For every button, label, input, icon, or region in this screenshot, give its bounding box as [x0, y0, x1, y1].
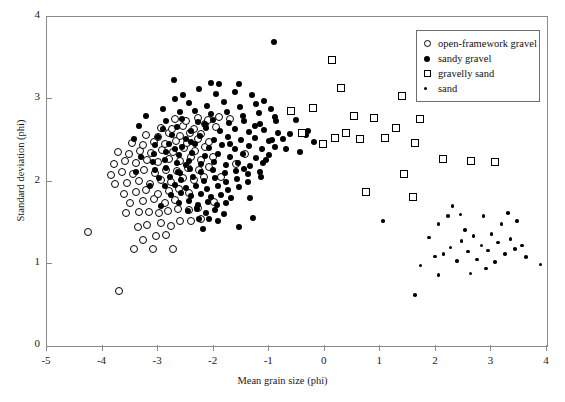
data-point: [225, 187, 231, 193]
data-point: [309, 104, 317, 112]
data-point: [245, 179, 251, 185]
data-point: [189, 150, 195, 156]
data-point: [212, 175, 218, 181]
data-point: [466, 250, 470, 254]
data-point: [249, 92, 255, 98]
filled-dot-icon: [424, 87, 438, 90]
data-point: [139, 197, 147, 205]
data-point: [503, 252, 507, 256]
data-point: [107, 171, 115, 179]
data-point: [269, 137, 275, 143]
data-point: [143, 113, 149, 119]
data-point: [151, 151, 157, 157]
data-point: [224, 109, 230, 115]
data-point: [210, 117, 216, 123]
x-axis-tick-label: 0: [304, 354, 344, 366]
x-axis-tick: [324, 345, 325, 351]
data-point: [176, 217, 184, 225]
data-point: [157, 219, 165, 227]
data-point: [232, 146, 238, 152]
x-axis-tick-label: 1: [359, 354, 399, 366]
data-point: [223, 179, 229, 185]
data-point: [416, 115, 424, 123]
data-point: [271, 39, 277, 45]
data-point: [164, 207, 172, 215]
scatter-plot-figure: Standard deviation (phi) -5-4-3-2-101234…: [0, 0, 565, 402]
data-point: [493, 260, 497, 264]
data-point: [362, 188, 370, 196]
data-point: [163, 118, 169, 124]
data-point: [381, 219, 385, 223]
legend-item-open-framework-gravel[interactable]: open-framework gravel: [417, 36, 539, 51]
x-axis-tick: [102, 345, 103, 351]
legend-label: sand: [438, 83, 457, 94]
data-point: [131, 136, 137, 142]
data-point: [268, 106, 274, 112]
data-point: [442, 252, 446, 256]
data-point: [205, 199, 211, 205]
data-point: [257, 121, 263, 127]
data-point: [237, 104, 243, 110]
data-point: [120, 190, 128, 198]
legend-item-sandy-gravel[interactable]: sandy gravel: [417, 51, 539, 66]
data-point: [222, 170, 228, 176]
data-point: [263, 157, 269, 163]
data-point: [147, 183, 153, 189]
data-point: [486, 249, 490, 253]
legend-item-sand[interactable]: sand: [417, 81, 539, 96]
data-point: [174, 160, 180, 166]
data-point: [130, 245, 138, 253]
data-point: [261, 98, 267, 104]
data-point: [136, 123, 142, 129]
data-point: [111, 180, 119, 188]
y-axis-tick-label: 3: [18, 90, 40, 102]
y-axis-tick-label: 4: [18, 8, 40, 20]
data-point: [228, 195, 234, 201]
data-point: [480, 244, 484, 248]
data-point: [218, 192, 224, 198]
data-point: [247, 163, 253, 169]
data-point: [202, 153, 208, 159]
data-point: [311, 139, 317, 145]
data-point: [283, 146, 289, 152]
data-point: [350, 112, 358, 120]
data-point: [200, 226, 206, 232]
data-point: [433, 255, 437, 259]
data-point: [427, 236, 431, 240]
data-point: [287, 107, 295, 115]
data-point: [236, 224, 242, 230]
data-point: [472, 234, 476, 238]
data-point: [287, 131, 293, 137]
data-point: [235, 160, 241, 166]
x-axis-tick-label: -5: [26, 354, 66, 366]
data-point: [123, 179, 131, 187]
data-point: [342, 129, 350, 137]
data-point: [293, 117, 299, 123]
data-point: [206, 145, 212, 151]
data-point: [172, 96, 178, 102]
data-point: [145, 208, 153, 216]
data-point: [135, 177, 143, 185]
y-axis-tick-label: 1: [18, 255, 40, 267]
x-axis-tick-label: -2: [193, 354, 233, 366]
data-point: [392, 124, 400, 132]
data-point: [198, 191, 204, 197]
data-point: [179, 144, 185, 150]
data-point: [149, 245, 157, 253]
data-point: [256, 110, 262, 116]
x-axis-tick-label: 2: [415, 354, 455, 366]
data-point: [223, 200, 229, 206]
data-point: [197, 133, 203, 139]
legend-item-gravelly-sand[interactable]: gravelly sand: [417, 66, 539, 81]
data-point: [110, 160, 118, 168]
data-point: [247, 195, 253, 201]
data-point: [437, 273, 441, 277]
data-point: [328, 56, 336, 64]
data-point: [178, 177, 184, 183]
data-point: [227, 154, 233, 160]
data-point: [234, 176, 240, 182]
data-point: [236, 81, 242, 87]
data-point: [484, 267, 488, 271]
data-point: [253, 155, 259, 161]
data-point: [241, 118, 247, 124]
